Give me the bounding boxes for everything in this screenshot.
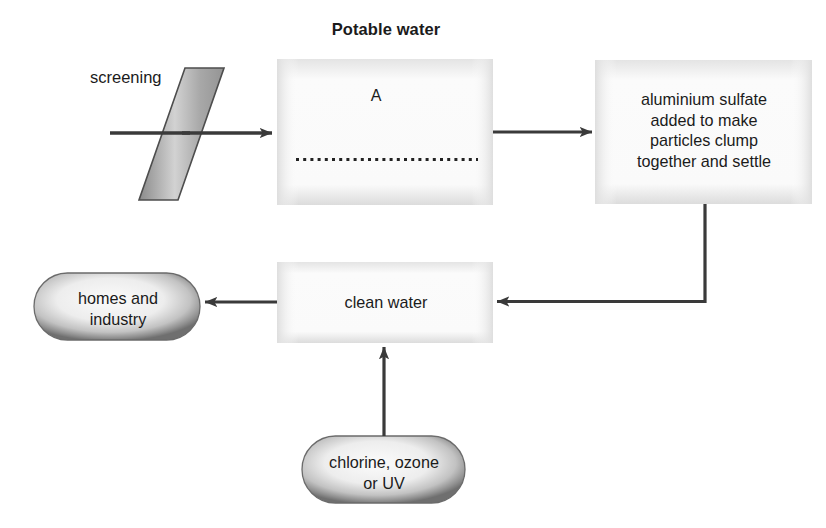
node-homes-and-industry[interactable] <box>34 273 200 340</box>
node-box-a[interactable] <box>277 59 493 205</box>
edge-aluminium-to-clean-water <box>497 204 705 302</box>
diagram-graphics <box>0 0 826 528</box>
node-chlorine-ozone-uv[interactable] <box>302 436 465 503</box>
node-clean-water[interactable] <box>277 262 493 343</box>
diagram-canvas: Potable water screening A aluminium sulf… <box>0 0 826 528</box>
node-aluminium-sulfate[interactable] <box>595 60 812 204</box>
